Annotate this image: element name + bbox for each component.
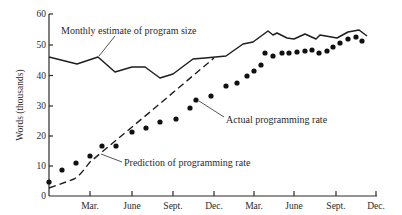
x-tick-dec-1: Dec.: [205, 201, 223, 211]
series-prediction-line: [49, 58, 214, 188]
y-tick-50: 50: [37, 40, 47, 50]
y-tick-40: 40: [37, 71, 47, 81]
x-tick-sept-1: Sept.: [163, 201, 182, 211]
y-tick-30: 30: [37, 101, 47, 111]
x-tick-labels: Mar. June Sept. Dec. Mar. June Sept. Dec…: [81, 201, 385, 211]
y-axis: [49, 14, 53, 196]
x-tick-june-1: June: [123, 201, 140, 211]
x-tick-dec-2: Dec.: [367, 201, 385, 211]
annotation-actual-label: Actual programming rate: [226, 114, 328, 125]
x-tick-mar-2: Mar.: [245, 201, 263, 211]
y-tick-60: 60: [37, 9, 47, 19]
x-tick-sept-2: Sept.: [326, 201, 345, 211]
annotation-program-size-label: Monthly estimate of program size: [61, 25, 197, 36]
annotation-actual: Actual programming rate: [199, 101, 328, 125]
x-axis: [49, 191, 377, 196]
x-tick-june-2: June: [285, 201, 302, 211]
y-tick-20: 20: [37, 131, 47, 141]
x-tick-mar-1: Mar.: [81, 201, 99, 211]
annotation-prediction: Prediction of programming rate: [101, 154, 251, 168]
y-tick-0: 0: [41, 191, 46, 201]
chart: 60 50 40 30 20 10 0 Words (thousands) Ma…: [0, 0, 402, 215]
y-tick-10: 10: [37, 161, 47, 171]
annotation-prediction-label: Prediction of programming rate: [124, 157, 251, 168]
annotation-program-size: Monthly estimate of program size: [61, 25, 197, 56]
y-axis-title: Words (thousands): [15, 69, 26, 140]
y-tick-labels: 60 50 40 30 20 10 0: [37, 9, 47, 201]
